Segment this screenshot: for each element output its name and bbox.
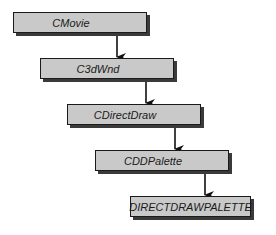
node-label: DIRECTDRAWPALETTE bbox=[129, 201, 251, 213]
node-cmovie: CMovie bbox=[13, 12, 147, 33]
node-label: C3dWnd bbox=[77, 63, 120, 75]
node-label: CDirectDraw bbox=[94, 109, 156, 121]
node-cdirectdraw: CDirectDraw bbox=[67, 104, 201, 125]
node-c3dwnd: C3dWnd bbox=[40, 58, 174, 79]
node-label: CMovie bbox=[52, 17, 89, 29]
node-label: CDDPalette bbox=[124, 155, 182, 167]
node-directdrawpalette: DIRECTDRAWPALETTE bbox=[130, 196, 251, 217]
node-cddpalette: CDDPalette bbox=[95, 150, 229, 171]
